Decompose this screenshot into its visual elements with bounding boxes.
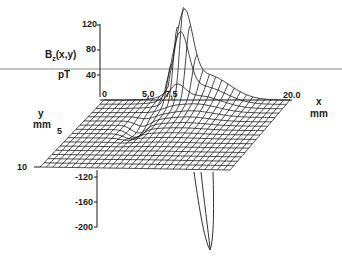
z-axis-upper (97, 24, 100, 97)
trough-lobe (194, 172, 214, 250)
x-tick-0: 0 (102, 90, 107, 99)
x-axis-unit: mm (310, 109, 328, 119)
z-tick-neg160: -160 (75, 198, 93, 207)
z-axis-lower (94, 170, 97, 227)
surface-plot (0, 0, 342, 256)
x-tick-7-5: 7.5 (165, 90, 178, 99)
z-axis-unit: pT (58, 70, 70, 80)
x-axis-label: x (316, 97, 322, 107)
y-tick-10: 10 (17, 163, 27, 172)
z-tick-80: 80 (86, 45, 96, 54)
z-axis-label-args: (x,y) (56, 49, 77, 60)
z-tick-120: 120 (82, 20, 97, 29)
y-axis-label: y (38, 109, 44, 119)
x-tick-20: 20.0 (283, 91, 301, 100)
x-tick-5: 5.0 (142, 90, 155, 99)
z-tick-40: 40 (86, 71, 96, 80)
z-tick-neg120: -120 (75, 173, 93, 182)
y-axis-unit: mm (33, 120, 51, 130)
y-tick-5: 5 (57, 127, 62, 136)
surface-mesh (40, 8, 290, 250)
z-tick-neg200: -200 (75, 223, 93, 232)
z-axis-label: Bz(x,y) (45, 50, 76, 62)
